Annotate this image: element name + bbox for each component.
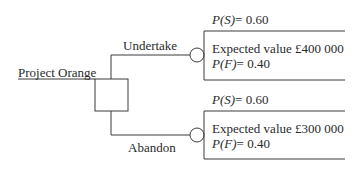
undertake-chance-node [190, 48, 204, 62]
root-label: Project Orange [18, 66, 96, 79]
abandon-label: Abandon [128, 141, 176, 154]
undertake-expected-value: Expected value £400 000 [212, 42, 344, 55]
p-failure-value: = 0.40 [237, 56, 270, 71]
undertake-p-success: P(S)= 0.60 [212, 13, 268, 26]
undertake-branch-line [111, 55, 190, 79]
p-success-value: = 0.60 [235, 12, 268, 27]
abandon-p-success: P(S)= 0.60 [212, 93, 268, 106]
abandon-p-failure: P(F)= 0.40 [212, 137, 270, 150]
p-success-value: = 0.60 [235, 92, 268, 107]
p-success-symbol: P(S) [212, 92, 235, 107]
abandon-chance-node [190, 128, 204, 142]
abandon-branch-line [111, 111, 190, 135]
p-failure-symbol: P(F) [212, 136, 237, 151]
p-failure-value: = 0.40 [237, 136, 270, 151]
decision-tree-lines [0, 0, 362, 170]
undertake-p-failure: P(F)= 0.40 [212, 57, 270, 70]
p-success-symbol: P(S) [212, 12, 235, 27]
decision-node-square [95, 79, 128, 111]
p-failure-symbol: P(F) [212, 56, 237, 71]
abandon-expected-value: Expected value £300 000 [212, 122, 344, 135]
undertake-label: Undertake [123, 39, 177, 52]
